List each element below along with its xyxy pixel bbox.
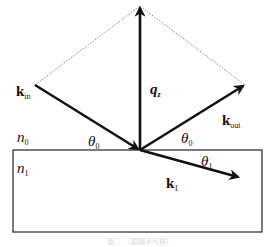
label-k-in: kin xyxy=(16,83,31,101)
figure-caption: 图 …（模糊不可辨） xyxy=(107,237,172,246)
label-n1: n1 xyxy=(17,160,29,178)
vector-k-1 xyxy=(140,150,238,177)
label-k-out: kout xyxy=(222,112,241,130)
reflection-diagram: kin qz kout k1 n0 n1 θ0 θ0 θ1 图 …（模糊不可辨） xyxy=(0,0,280,247)
label-k-1: k1 xyxy=(166,175,178,193)
dashed-line-right xyxy=(140,6,245,85)
label-n0: n0 xyxy=(17,129,29,147)
vector-k-in xyxy=(35,85,138,149)
label-theta0-right: θ0 xyxy=(181,130,192,148)
substrate-medium xyxy=(13,150,262,232)
label-q-z: qz xyxy=(150,81,162,99)
label-theta1: θ1 xyxy=(201,153,212,171)
dashed-line-left xyxy=(35,6,140,85)
label-theta0-left: θ0 xyxy=(88,133,99,151)
